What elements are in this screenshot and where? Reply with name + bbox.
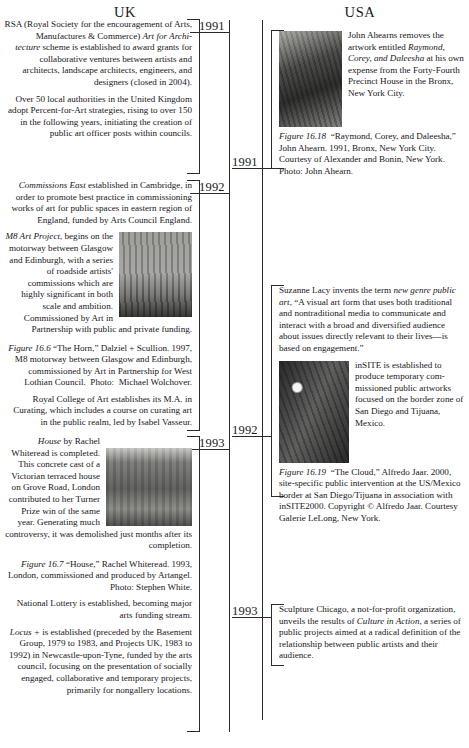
usa-figure-16-18-label: Figure 16.18 [279,131,326,141]
bracket-cap-bottom [187,731,199,732]
usa-entry-1993: Sculpture Chicago, a not-for-profit orga… [271,604,465,666]
usa-1992-paragraph-1: Suzanne Lacy invents the term new genre … [279,285,465,355]
bracket-cap-bottom [272,496,284,497]
uk-figure-16-7-label: Figure 16.7 [21,559,64,569]
bracket-cap-top [272,30,284,31]
uk-1993-paragraph-2: National Lottery is established, becomin… [4,598,192,621]
usa-1993-paragraph-1: Sculpture Chicago, a not-for-profit orga… [279,604,465,662]
uk-1991-paragraph-1: RSA (Royal Society for the encouragement… [4,19,192,89]
horn-sculpture-photo [119,232,192,317]
year-rule-usa-1993 [232,617,272,618]
timeline-page: UK USA 1991 1992 1993 1991 1992 1993 RSA… [0,0,469,748]
uk-figure-16-6-caption: Figure 16.6 “The Horn,” Dalziel + Sculli… [4,343,192,389]
uk-figure-16-7-caption: Figure 16.7 “House,” Rachel Whiteread. 1… [4,559,192,594]
bracket-cap-top [187,436,199,437]
whiteread-house-photo [106,448,192,526]
bracket-cap-bottom [272,168,284,169]
year-rule-usa-1991 [232,168,272,169]
usa-figure-16-19-label: Figure 16.19 [279,467,326,477]
ahearn-sculpture-photo [279,31,342,127]
bracket-cap-top [272,285,284,286]
uk-entry-1991: RSA (Royal Society for the encouragement… [4,19,200,174]
bracket-cap-top [187,19,199,20]
bracket-cap-bottom [272,665,284,666]
uk-1992-paragraph-3: Royal College of Art establishes its M.A… [4,394,192,429]
timeline-spine-uk [229,20,230,732]
bracket-cap-bottom [187,430,199,431]
uk-figure-16-6-label: Figure 16.6 [8,343,51,353]
year-rule-usa-1992 [232,436,272,437]
uk-entry-1992: Commissions East established in Cambridg… [4,180,200,431]
uk-1993-paragraph-3: Locus + is established (preceded by the … [4,627,192,697]
bracket-cap-top [187,180,199,181]
usa-entry-1992: Suzanne Lacy invents the term new genre … [271,285,465,497]
column-header-usa: USA [300,4,420,21]
uk-entry-1993: House by Rachel Whiteread is completed. … [4,436,200,732]
usa-entry-1991: John Ahearns removes the artwork entitle… [271,30,465,169]
timeline-spine-usa [262,20,263,720]
the-cloud-photo [279,361,349,463]
bracket-cap-top [272,604,284,605]
usa-figure-16-19-caption: Figure 16.19 “The Cloud,” Alfredo Jaar. … [279,467,465,525]
usa-figure-16-18-caption: Figure 16.18 “Raymond, Corey, and Dalees… [279,131,465,177]
uk-1991-paragraph-2: Over 50 local authorities in the United … [4,94,192,140]
bracket-cap-bottom [187,173,199,174]
uk-1992-paragraph-1: Commissions East established in Cambridg… [4,180,192,226]
